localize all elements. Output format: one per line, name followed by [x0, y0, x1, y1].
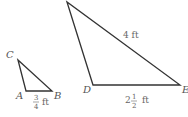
small-triangle [18, 60, 52, 91]
large-triangle [67, 2, 180, 85]
side-ab-unit: ft [42, 97, 49, 107]
vertex-label-e: E [181, 84, 188, 95]
side-hypotenuse-measure: 4 ft [123, 30, 139, 40]
vertex-label-c: C [6, 49, 14, 60]
vertex-label-d: D [82, 84, 91, 95]
vertex-label-a: A [15, 90, 23, 101]
side-ab-numerator: 3 [34, 94, 38, 102]
side-de-whole: 2 [125, 95, 131, 105]
side-de-measure: 2 1 2 ft [125, 93, 149, 110]
side-ab-measure: 3 4 ft [33, 94, 49, 111]
side-de-unit: ft [142, 95, 149, 105]
side-ab-denominator: 4 [34, 103, 39, 111]
side-de-numerator: 1 [132, 93, 136, 101]
similar-triangles-diagram: C A B 3 4 ft 4 ft D E 2 1 2 ft [0, 0, 188, 117]
vertex-label-b: B [53, 90, 61, 101]
side-de-denominator: 2 [132, 102, 136, 110]
